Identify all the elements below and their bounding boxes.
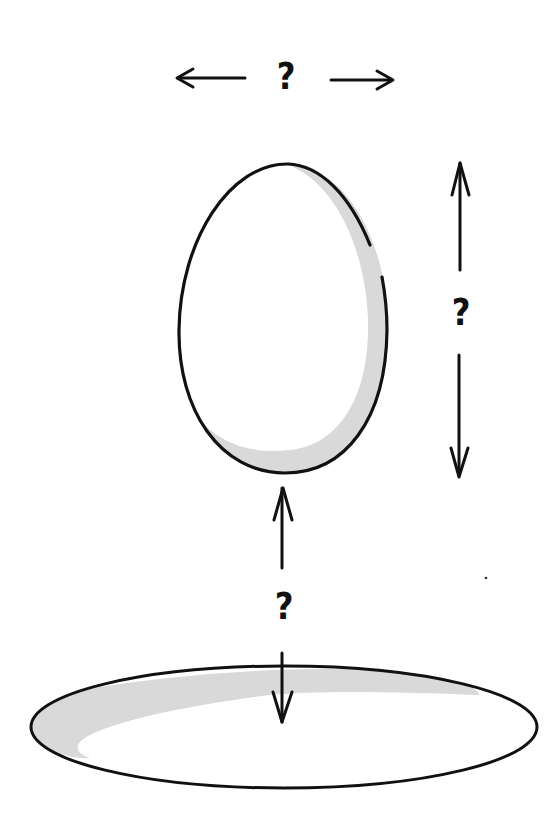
ink-speck <box>485 577 488 580</box>
drawing-svg <box>0 0 557 835</box>
width-question-mark: ? <box>277 57 296 95</box>
height-question-mark: ? <box>452 293 471 331</box>
diagram-canvas: ? ? ? <box>0 0 557 835</box>
gap-question-mark: ? <box>275 587 294 625</box>
plate-shading <box>30 669 480 758</box>
